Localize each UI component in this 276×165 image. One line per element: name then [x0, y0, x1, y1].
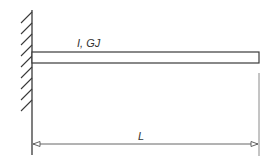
length-label: L [138, 130, 144, 142]
beam-section-label: I, GJ [77, 37, 101, 49]
cantilever-diagram: I, GJ L [0, 0, 276, 165]
arrowhead-right-icon [251, 142, 258, 147]
beam [32, 52, 259, 63]
fixed-wall-support [21, 10, 32, 155]
length-dimension [33, 142, 258, 147]
wall-hatching [21, 12, 32, 111]
arrowhead-left-icon [33, 142, 40, 147]
